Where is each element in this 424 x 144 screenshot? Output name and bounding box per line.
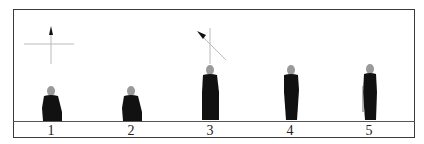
- upright-arrow-icon: [24, 26, 74, 64]
- pose-label-1: 1: [41, 123, 61, 139]
- pose-label-3: 3: [200, 123, 220, 139]
- diagonal-arrow-icon: [197, 28, 226, 64]
- figure-4: [284, 65, 299, 120]
- figure-2: [122, 86, 142, 121]
- figure-5: [363, 64, 377, 120]
- floor-line: [13, 121, 415, 122]
- pose-label-5: 5: [359, 123, 379, 139]
- pose-label-4: 4: [280, 123, 300, 139]
- figure-1: [42, 86, 62, 121]
- figure-3: [202, 65, 219, 120]
- pose-label-2: 2: [121, 123, 141, 139]
